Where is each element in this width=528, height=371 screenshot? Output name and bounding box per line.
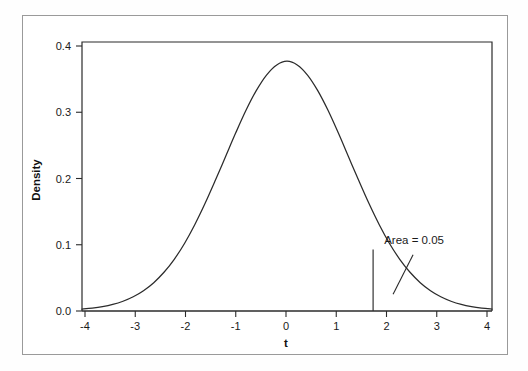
y-tick-label-1: 0.1 — [56, 239, 71, 251]
x-tick-label-2: -2 — [181, 320, 191, 332]
y-axis-title: Density — [30, 159, 42, 201]
density-chart-figure: 0.0 0.1 0.2 0.3 0.4 Density — [0, 0, 528, 371]
x-tick-label-5: 1 — [333, 320, 339, 332]
plot-area-background — [82, 42, 492, 311]
x-tick-label-1: -3 — [130, 320, 140, 332]
x-tick-label-7: 3 — [434, 320, 440, 332]
y-axis-ticks — [76, 46, 82, 311]
area-annotation-label: Area = 0.05 — [384, 234, 444, 246]
y-tick-label-2: 0.2 — [56, 173, 71, 185]
chart-canvas: 0.0 0.1 0.2 0.3 0.4 Density — [0, 0, 528, 371]
x-axis-tick-labels: -4 -3 -2 -1 0 1 2 3 4 — [80, 320, 490, 332]
y-axis-tick-labels: 0.0 0.1 0.2 0.3 0.4 — [56, 40, 71, 317]
x-tick-label-0: -4 — [80, 320, 90, 332]
x-axis-ticks — [85, 311, 487, 317]
y-tick-label-3: 0.3 — [56, 106, 71, 118]
x-tick-label-6: 2 — [383, 320, 389, 332]
screenshot-root: 0.0 0.1 0.2 0.3 0.4 Density — [0, 0, 528, 371]
x-tick-label-3: -1 — [231, 320, 241, 332]
x-tick-label-8: 4 — [484, 320, 490, 332]
x-tick-label-4: 0 — [283, 320, 289, 332]
y-tick-label-4: 0.4 — [56, 40, 71, 52]
y-tick-label-0: 0.0 — [56, 305, 71, 317]
x-axis-title: t — [284, 337, 288, 349]
